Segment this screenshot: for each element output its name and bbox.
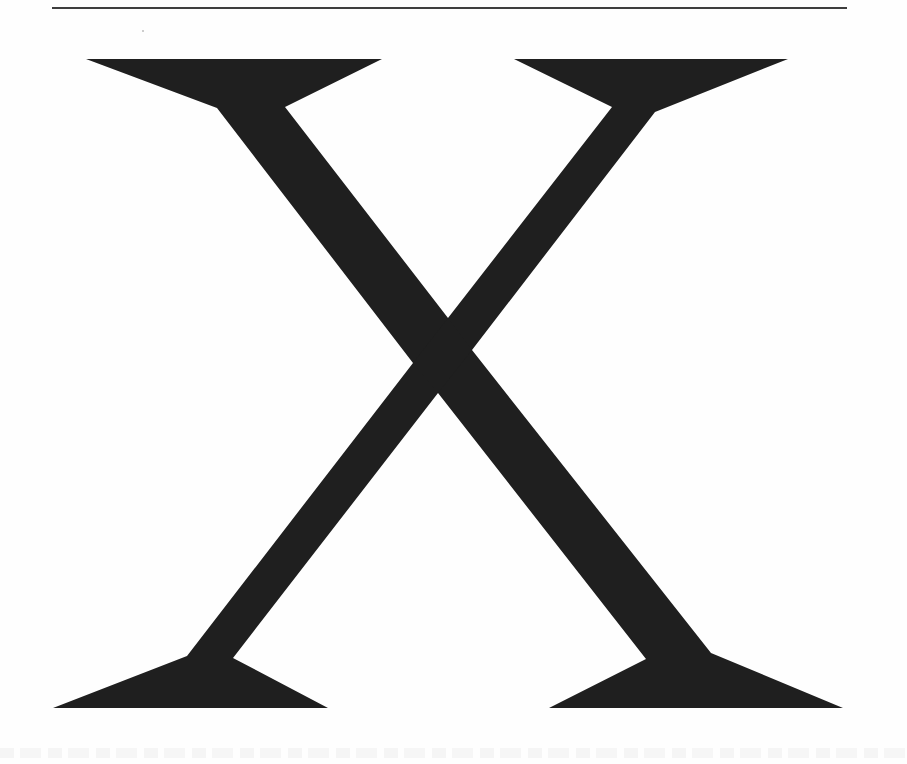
serif-letter-x-glyph [0, 0, 907, 764]
thick-diagonal-stroke [86, 59, 843, 708]
thin-diagonal-stroke [53, 59, 788, 708]
show-through-text-band [0, 748, 907, 758]
document-page: X [0, 0, 907, 764]
